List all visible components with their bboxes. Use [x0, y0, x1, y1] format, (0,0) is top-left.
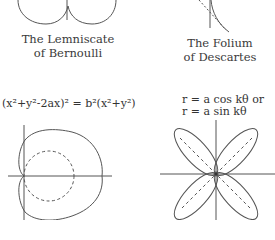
caption-line: of Bernoulli [18, 46, 118, 60]
rose-equation: r = a cos kθ or r = a sin kθ [182, 94, 264, 118]
folium-caption: The Folium of Descartes [170, 36, 270, 64]
caption-line: The Folium [170, 36, 270, 50]
caption-line: The Lemniscate [18, 32, 118, 46]
limacon-curve [19, 130, 102, 220]
equation-line: r = a sin kθ [182, 106, 264, 118]
caption-line: of Descartes [170, 50, 270, 64]
limacon-equation: (x²+y²-2ax)² = b²(x²+y²) [2, 98, 136, 110]
lemniscate-caption: The Lemniscate of Bernoulli [18, 32, 118, 60]
